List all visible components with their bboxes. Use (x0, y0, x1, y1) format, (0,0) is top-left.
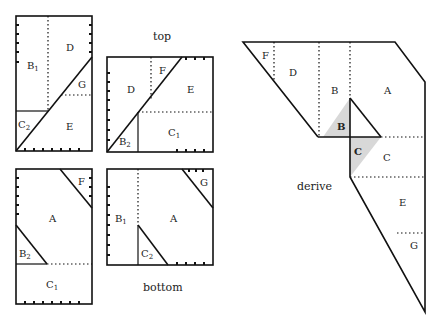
caption-bottom: bottom (143, 281, 183, 294)
panel-bottom-right: G B1 A C2 (107, 169, 213, 265)
label-a: A (169, 213, 178, 224)
label-b: B (331, 85, 338, 96)
panel-top-right: D F E B2 C1 (107, 57, 213, 152)
label-b1: B1 (115, 213, 127, 226)
derive-outline (243, 42, 425, 312)
caption-derive: derive (297, 180, 332, 193)
panel-top-left: B1 D G C2 E (16, 16, 92, 151)
shaded-triangle-c (350, 137, 381, 177)
label-d: D (66, 42, 74, 53)
dissection-diagram: B1 D G C2 E top D F E B2 C1 (0, 0, 438, 320)
panel-bottom-left: F A B2 C1 (16, 169, 92, 304)
label-c1: C1 (46, 279, 58, 292)
caption-top: top (153, 30, 171, 43)
f-cut (60, 169, 92, 208)
label-e: E (399, 197, 406, 208)
label-c2: C2 (18, 119, 30, 132)
label-f: F (159, 65, 166, 76)
label-g: G (200, 177, 208, 188)
label-g: G (78, 79, 86, 90)
label-a: A (48, 213, 57, 224)
label-c1: C1 (168, 127, 180, 140)
derive-figure: F D B A B C C E G (243, 42, 425, 312)
g-cut (182, 169, 213, 208)
label-e: E (187, 84, 194, 95)
label-b2: B2 (19, 248, 31, 261)
label-d: D (127, 84, 135, 95)
label-c2: C2 (141, 248, 153, 261)
label-a: A (383, 85, 392, 96)
label-b1: B1 (27, 60, 39, 73)
label-g: G (410, 240, 418, 251)
label-e: E (66, 121, 73, 132)
label-b2: B2 (119, 136, 131, 149)
inner-diagonal (350, 98, 381, 137)
label-c: C (383, 152, 391, 163)
label-f: F (78, 176, 85, 187)
diagonal-cut (16, 57, 92, 151)
label-b-shaded: B (337, 121, 345, 132)
label-c-shaded: C (354, 146, 362, 157)
label-f: F (262, 50, 269, 61)
panel-bottom-right-frame (107, 169, 213, 265)
label-d: D (289, 67, 297, 78)
